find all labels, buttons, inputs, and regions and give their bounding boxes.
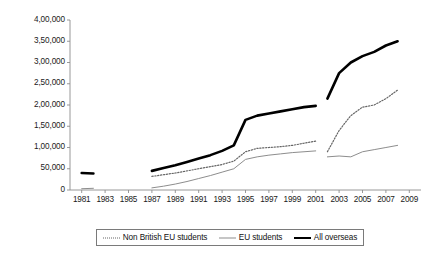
y-tick-label: 0: [61, 185, 65, 194]
x-tick-label: 1981: [69, 195, 95, 204]
y-tick-label: 1,50,000: [34, 121, 65, 130]
thin-line-swatch-icon: [219, 235, 236, 241]
x-tick-label: 1991: [186, 195, 212, 204]
x-tick-label: 1999: [279, 195, 305, 204]
axes: [67, 20, 421, 193]
x-tick-label: 1993: [209, 195, 235, 204]
series-line: [327, 41, 397, 98]
x-tick-label: 1987: [139, 195, 165, 204]
series-line: [152, 106, 316, 171]
legend-item-non-british-eu-students[interactable]: Non British EU students: [103, 233, 208, 242]
y-tick-label: 4,00,000: [34, 15, 65, 24]
legend-label: Non British EU students: [123, 233, 208, 242]
y-tick-label: 3,50,000: [34, 36, 65, 45]
x-tick-label: 1989: [162, 195, 188, 204]
y-tick-label: 1,00,000: [34, 142, 65, 151]
x-tick-label: 2001: [303, 195, 329, 204]
y-tick-label: 2,00,000: [34, 100, 65, 109]
x-tick-label: 2009: [396, 195, 422, 204]
line-chart: 050,0001,00,0001,50,0002,00,0002,50,0003…: [0, 0, 430, 265]
dotted-line-swatch-icon: [103, 235, 120, 241]
x-tick-label: 1985: [116, 195, 142, 204]
series-lines: [82, 41, 398, 188]
x-tick-label: 2003: [326, 195, 352, 204]
x-tick-label: 1997: [256, 195, 282, 204]
y-tick-label: 50,000: [41, 163, 65, 172]
legend-label: EU students: [239, 233, 283, 242]
series-line: [327, 145, 397, 156]
legend: Non British EU students EU students All …: [96, 229, 364, 246]
thick-line-swatch-icon: [294, 235, 311, 241]
x-tick-label: 2005: [350, 195, 376, 204]
legend-item-eu-students[interactable]: EU students: [219, 233, 283, 242]
y-tick-label: 2,50,000: [34, 78, 65, 87]
x-tick-label: 1995: [233, 195, 259, 204]
series-line: [327, 90, 397, 152]
y-tick-label: 3,00,000: [34, 57, 65, 66]
series-line: [152, 151, 316, 188]
x-tick-label: 2007: [373, 195, 399, 204]
legend-label: All overseas: [314, 233, 357, 242]
legend-item-all-overseas[interactable]: All overseas: [294, 233, 357, 242]
x-tick-label: 1983: [92, 195, 118, 204]
